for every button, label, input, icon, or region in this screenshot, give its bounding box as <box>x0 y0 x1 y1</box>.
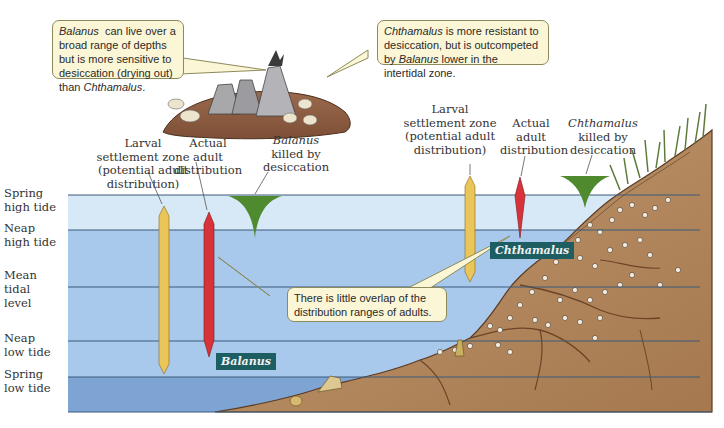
balanus-adult-range-bar <box>204 212 214 357</box>
chthamalus-adult-label: Actual adult distribution <box>500 117 562 158</box>
intertidal-zonation-figure: Balanus can live over a broad range of d… <box>0 0 724 428</box>
balanus-larval-range-bar <box>159 206 169 374</box>
tide-label-spring-high: Springhigh tide <box>4 186 56 214</box>
tide-label-mean-tidal: Meantidallevel <box>4 268 37 310</box>
tide-label-neap-low: Neaplow tide <box>4 331 51 359</box>
tide-label-spring-low: Springlow tide <box>4 367 51 395</box>
overlap-callout: There is little overlap of the distribut… <box>287 287 447 322</box>
balanus-callout: Balanus can live over a broad range of d… <box>52 20 184 79</box>
tide-label-neap-high: Neaphigh tide <box>4 221 56 249</box>
chthamalus-species-tag: Chthamalus <box>490 242 574 259</box>
balanus-adult-label: Actual adult distribution <box>168 137 248 178</box>
balanus-killed-label: Balanus killed by desiccation <box>256 134 336 175</box>
balanus-species-tag: Balanus <box>216 353 276 370</box>
chthamalus-callout: Chthamalus is more resistant to desiccat… <box>377 20 549 65</box>
chthamalus-larval-label: Larval settlement zone (potential adult … <box>395 103 505 157</box>
chthamalus-killed-label: Chthamalus killed by desiccation <box>563 117 643 158</box>
chthamalus-larval-range-bar <box>465 176 475 282</box>
